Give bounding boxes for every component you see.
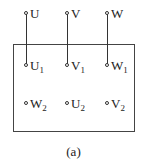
box-label-u1: U1 <box>30 59 44 74</box>
terminal-circle-icon <box>24 11 28 15</box>
box-label-w2: W2 <box>30 97 47 112</box>
terminal-circle-icon <box>105 11 109 15</box>
terminal-circle-icon <box>24 101 28 105</box>
terminal-circle-icon <box>65 101 69 105</box>
supply-label-u: U <box>30 7 39 20</box>
wire-u <box>26 14 27 64</box>
figure-caption: (a) <box>0 144 147 160</box>
box-label-v1: V1 <box>71 59 85 74</box>
terminal-circle-icon <box>65 11 69 15</box>
wire-w <box>107 14 108 64</box>
supply-label-v: V <box>71 7 80 20</box>
box-label-w1: W1 <box>111 59 128 74</box>
terminal-circle-icon <box>105 101 109 105</box>
box-label-v2: V2 <box>111 97 125 112</box>
terminal-circle-icon <box>65 63 69 67</box>
supply-label-w: W <box>111 7 123 20</box>
wire-v <box>67 14 68 64</box>
terminal-circle-icon <box>24 63 28 67</box>
terminal-circle-icon <box>105 63 109 67</box>
box-label-u2: U2 <box>71 97 85 112</box>
